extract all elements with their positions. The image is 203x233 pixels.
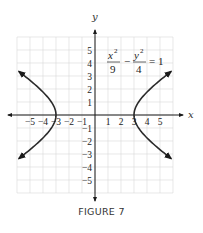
eq-y-exp: 2: [140, 47, 144, 55]
y-tick-label: −2: [82, 137, 92, 147]
x-tick-label: 4: [145, 117, 150, 127]
y-tick-label: 5: [87, 46, 92, 56]
y-axis-label: y: [91, 11, 98, 22]
eq-rhs: = 1: [149, 55, 163, 67]
x-tick-label: 2: [119, 117, 124, 127]
y-tick-label: −5: [82, 176, 92, 186]
x-tick-label: −4: [38, 117, 48, 127]
y-tick-label: 4: [87, 59, 92, 69]
figure-caption: FIGURE 7: [0, 206, 203, 217]
x-axis-label: x: [188, 109, 194, 120]
x-tick-label: 5: [158, 117, 163, 127]
x-tick-label: −5: [25, 117, 35, 127]
eq-minus: −: [124, 55, 130, 67]
eq-9: 9: [110, 63, 116, 75]
eq-y: y: [133, 49, 139, 61]
y-tick-label: 2: [87, 85, 92, 95]
y-tick-label: 1: [87, 98, 92, 108]
y-tick-label: −3: [82, 150, 92, 160]
equation-label: x 2 9 − y 2 4 = 1: [107, 47, 163, 75]
y-tick-label: −1: [82, 124, 92, 134]
x-tick-label: 1: [106, 117, 111, 127]
eq-x: x: [107, 49, 113, 61]
eq-x-exp: 2: [114, 47, 118, 55]
hyperbola-figure: −5−4−3−2−11234554321−1−2−3−4−5 x y x 2 9…: [0, 0, 203, 233]
eq-4: 4: [136, 63, 142, 75]
x-tick-label: −3: [51, 117, 61, 127]
y-tick-label: 3: [87, 72, 92, 82]
x-tick-label: −2: [64, 117, 74, 127]
x-tick-label: 3: [132, 117, 137, 127]
y-tick-label: −4: [82, 163, 92, 173]
